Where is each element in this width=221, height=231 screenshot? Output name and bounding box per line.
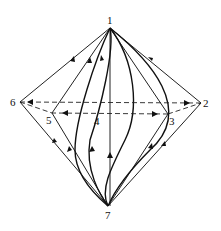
arrow-icon <box>161 141 166 146</box>
node-label-5: 5 <box>46 114 52 126</box>
edge-1-6 <box>20 28 110 102</box>
node-label-2: 2 <box>203 97 209 109</box>
arrow-icon <box>27 99 33 105</box>
arrow-icon <box>100 55 104 61</box>
node-label-4: 4 <box>94 115 100 127</box>
node-label-1: 1 <box>107 14 113 26</box>
arrow-icon <box>62 110 68 116</box>
edge-3-7 <box>108 114 168 206</box>
arrow-icon <box>152 111 158 117</box>
edge-2-6-dashed <box>20 102 201 103</box>
edge-2-7 <box>108 103 201 206</box>
arrow-icon <box>107 152 113 158</box>
arrow-icon <box>67 146 72 152</box>
node-label-6: 6 <box>10 96 16 108</box>
arrow-icon <box>89 146 95 152</box>
node-label-7: 7 <box>105 209 111 221</box>
arrow-icon <box>184 100 190 106</box>
flow-diagram: 1 2 3 4 5 6 7 <box>0 0 221 231</box>
node-label-3: 3 <box>169 115 175 127</box>
edge-1-7-curve-right <box>108 28 169 206</box>
edge-3-5-dashed <box>52 113 168 114</box>
